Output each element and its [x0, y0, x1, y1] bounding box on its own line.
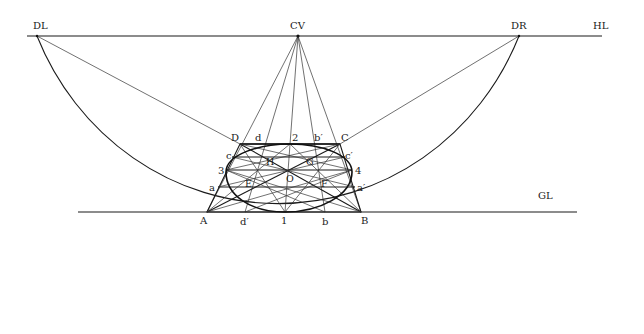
label-c-corner: C: [341, 132, 349, 143]
label-g: G: [306, 156, 314, 167]
label-c-prime: c′: [345, 150, 354, 161]
label-h: H: [266, 156, 274, 167]
perspective-circle-diagram: DL CV DR HL GL A B C D 1 2 3 4 O E F G H…: [0, 0, 644, 334]
label-gl: GL: [538, 190, 553, 201]
measuring-arc: [37, 36, 519, 204]
cv-point: [296, 34, 299, 37]
label-c: c: [226, 150, 232, 161]
dr-to-d-line: [340, 36, 519, 144]
dl-point: [36, 35, 38, 37]
label-dr: DR: [511, 20, 527, 31]
label-1: 1: [281, 215, 287, 226]
label-2: 2: [292, 132, 298, 143]
label-a-prime: a′: [357, 182, 366, 193]
dr-point: [518, 35, 520, 37]
label-4: 4: [355, 165, 361, 176]
label-hl: HL: [593, 20, 609, 31]
label-dl: DL: [33, 20, 48, 31]
label-3: 3: [218, 165, 224, 176]
label-a: a: [209, 182, 215, 193]
label-o: O: [286, 173, 294, 184]
label-cv: CV: [290, 20, 306, 31]
label-e: E: [245, 178, 252, 189]
label-d-prime: d′: [240, 216, 249, 227]
orthogonals: [207, 36, 361, 212]
label-d-corner: D: [231, 132, 239, 143]
label-b: b: [322, 216, 328, 227]
dl-to-c-line: [37, 36, 240, 144]
label-b-prime: b′: [314, 132, 323, 143]
label-f: F: [321, 178, 328, 189]
label-b-corner: B: [361, 215, 368, 226]
label-d: d: [255, 132, 262, 143]
label-a-corner: A: [199, 215, 208, 226]
